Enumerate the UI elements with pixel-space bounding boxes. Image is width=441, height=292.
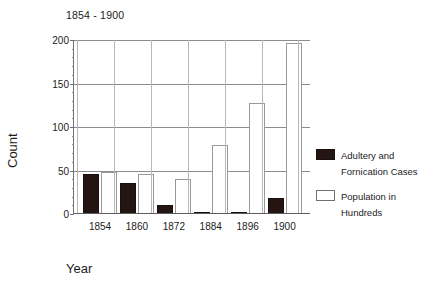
y-minor-tick xyxy=(72,75,75,76)
group-separator xyxy=(77,40,78,214)
x-tick-label: 1884 xyxy=(200,221,222,232)
y-minor-tick xyxy=(72,179,75,180)
y-tick-label: 0 xyxy=(63,209,69,220)
legend-label-line1: Adultery and xyxy=(341,148,438,164)
y-minor-tick xyxy=(72,101,75,102)
y-axis-title: Count xyxy=(5,133,20,168)
y-minor-tick xyxy=(72,197,75,198)
x-axis-title: Year xyxy=(66,261,92,276)
bar-group: 1884 xyxy=(188,40,225,214)
y-minor-tick xyxy=(72,118,75,119)
x-tick-label: 1896 xyxy=(237,221,259,232)
y-tick-mark xyxy=(70,127,74,128)
y-tick-label: 50 xyxy=(58,165,69,176)
group-separator xyxy=(225,40,226,214)
bar-adultery-cases xyxy=(268,198,284,214)
y-minor-tick xyxy=(72,110,75,111)
legend-label-line1: Population in xyxy=(341,189,438,205)
legend-label-line2: Fornication Cases xyxy=(341,164,438,180)
y-minor-tick xyxy=(72,92,75,93)
plot-inner: 050100150200 185418601872188418961900 xyxy=(74,40,310,214)
legend-swatch-white xyxy=(316,190,335,201)
x-tick-label: 1900 xyxy=(273,221,295,232)
legend-swatch-black xyxy=(316,149,335,160)
x-tick-label: 1860 xyxy=(126,221,148,232)
bar-adultery-cases xyxy=(120,183,136,214)
y-minor-tick xyxy=(72,66,75,67)
group-separator xyxy=(262,40,263,214)
bar-group: 1860 xyxy=(114,40,151,214)
y-tick-mark xyxy=(70,214,74,215)
group-separator xyxy=(151,40,152,214)
bar-adultery-cases xyxy=(83,174,99,214)
y-minor-tick xyxy=(72,49,75,50)
plot-area: 050100150200 185418601872188418961900 xyxy=(73,40,310,214)
chart-title: 1854 - 1900 xyxy=(66,9,124,21)
bar-chart-figure: 1854 - 1900 Count Year 050100150200 1854… xyxy=(0,0,441,292)
x-tick-label: 1854 xyxy=(89,221,111,232)
y-minor-tick xyxy=(72,136,75,137)
group-separator xyxy=(114,40,115,214)
x-axis-line xyxy=(74,213,310,214)
y-minor-tick xyxy=(72,188,75,189)
y-tick-mark xyxy=(70,40,74,41)
bar-group: 1872 xyxy=(151,40,188,214)
legend-entry: Population inHundreds xyxy=(316,189,438,221)
group-separator xyxy=(298,40,299,214)
legend-entry: Adultery andFornication Cases xyxy=(316,148,438,180)
y-minor-tick xyxy=(72,57,75,58)
bar-group: 1896 xyxy=(225,40,262,214)
y-tick-mark xyxy=(70,171,74,172)
bar-group: 1854 xyxy=(77,40,114,214)
y-minor-tick xyxy=(72,144,75,145)
chart-legend: Adultery andFornication CasesPopulation … xyxy=(316,148,438,230)
y-tick-label: 200 xyxy=(52,35,69,46)
x-tick-label: 1872 xyxy=(163,221,185,232)
y-tick-label: 150 xyxy=(52,78,69,89)
y-tick-mark xyxy=(70,84,74,85)
y-tick-label: 100 xyxy=(52,122,69,133)
legend-label-line2: Hundreds xyxy=(341,205,438,221)
y-minor-tick xyxy=(72,162,75,163)
y-minor-tick xyxy=(72,205,75,206)
y-minor-tick xyxy=(72,153,75,154)
group-separator xyxy=(188,40,189,214)
bar-group: 1900 xyxy=(262,40,299,214)
